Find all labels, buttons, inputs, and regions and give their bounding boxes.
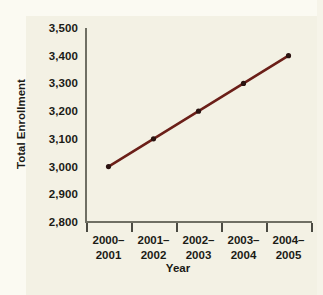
y-axis-tick-label: 3,100: [18, 133, 78, 145]
data-point: [106, 164, 111, 169]
y-axis-line: [85, 28, 87, 223]
y-axis-tick-label: 2,800: [18, 216, 78, 228]
x-axis-tick-mark: [311, 223, 313, 232]
x-axis-tick-mark: [86, 223, 88, 232]
x-axis-tick-mark: [131, 223, 133, 232]
data-point: [196, 109, 201, 114]
x-axis-tick-label-line: 2005: [261, 248, 317, 263]
x-axis-tick-mark: [266, 223, 268, 232]
series-line: [109, 56, 289, 167]
x-axis-line: [85, 221, 312, 223]
y-axis-tick-label: 3,200: [18, 105, 78, 117]
y-axis-tick-label: 3,300: [18, 77, 78, 89]
y-axis-tick-label: 3,000: [18, 161, 78, 173]
data-point: [241, 81, 246, 86]
line-chart: 2,8002,9003,0003,1003,2003,3003,4003,500…: [0, 0, 323, 295]
data-point: [151, 136, 156, 141]
x-axis-tick-label-line: 2004–: [261, 233, 317, 248]
y-axis-tick-label: 3,500: [18, 22, 78, 34]
data-point: [286, 53, 291, 58]
y-axis-tick-label: 2,900: [18, 188, 78, 200]
y-axis-title: Total Enrollment: [15, 64, 27, 184]
x-axis-tick-mark: [221, 223, 223, 232]
x-axis-tick-label: 2004–2005: [261, 233, 317, 262]
y-axis-tick-label: 3,400: [18, 50, 78, 62]
x-axis-title: Year: [118, 262, 238, 274]
series-markers: [106, 53, 291, 169]
x-axis-tick-mark: [176, 223, 178, 232]
chart-screenshot: 2,8002,9003,0003,1003,2003,3003,4003,500…: [0, 0, 323, 295]
